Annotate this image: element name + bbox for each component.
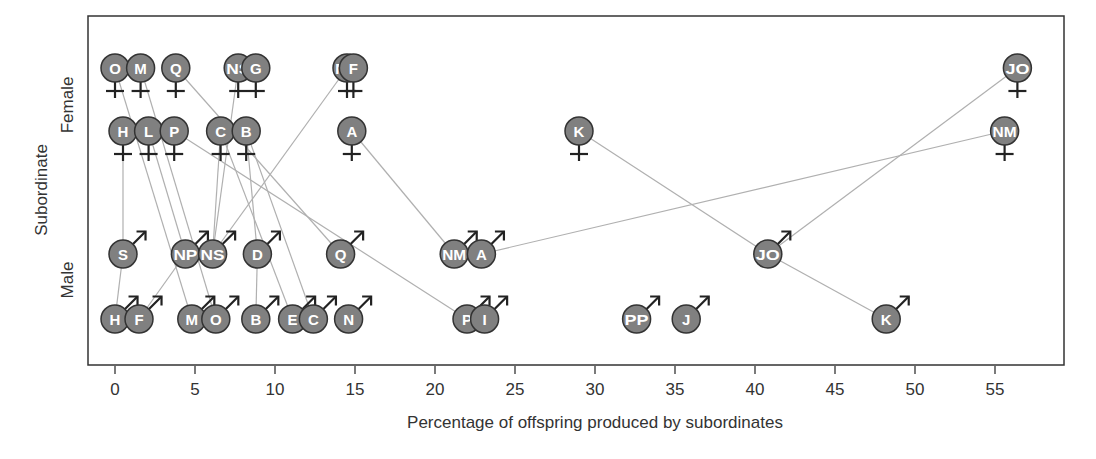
point-label: H [118,123,129,140]
point-label: NS [201,246,225,263]
x-tick-label: 40 [746,380,765,399]
point-label: NP [173,246,197,263]
point-label: B [250,311,261,328]
point-label: A [476,246,487,263]
x-tick-label: 55 [986,380,1005,399]
x-tick-label: 25 [506,380,525,399]
point-label: L [144,123,153,140]
point-label: P [169,123,179,140]
x-tick-label: 5 [190,380,199,399]
point-label: N [343,311,354,328]
point-label: JO [756,246,780,263]
point-label: M [186,311,199,328]
point-label: E [288,311,298,328]
point-label: F [349,60,358,77]
x-tick-label: 30 [586,380,605,399]
point-label: J [682,311,690,328]
point-label: O [210,311,222,328]
x-axis-title: Percentage of offspring produced by subo… [407,413,783,432]
y-category-female: Female [58,77,77,134]
point-label: PP [625,311,649,328]
point-label: Q [170,60,182,77]
x-tick-label: 10 [266,380,285,399]
point-label: F [134,311,143,328]
point-label: O [109,60,121,77]
x-tick-label: 15 [346,380,365,399]
y-axis-title: Subordinate [32,144,51,236]
x-axis: 0510152025303540455055 [110,366,1004,399]
point-label: B [241,123,252,140]
x-tick-label: 35 [666,380,685,399]
x-tick-label: 20 [426,380,445,399]
point-label: K [881,311,892,328]
point-label: D [252,246,263,263]
point-label: S [118,246,128,263]
scatter-chart: OMQNSGNPFJOHLPCBAKNMSNPNSDQNMAJOHFMOBECN… [0,0,1096,459]
point-label: C [308,311,319,328]
x-tick-label: 45 [826,380,845,399]
point-label: H [110,311,121,328]
x-tick-label: 0 [110,380,119,399]
point-label: JO [1005,60,1029,77]
point-label: C [215,123,226,140]
point-label: I [483,311,487,328]
y-category-male: Male [58,262,77,299]
point-label: M [134,60,147,77]
point-label: NM [442,246,466,263]
point-label: Q [335,246,347,263]
point-label: K [574,123,585,140]
point-label: NM [993,123,1017,140]
x-tick-label: 50 [906,380,925,399]
point-label: A [346,123,357,140]
point-label: G [250,60,262,77]
